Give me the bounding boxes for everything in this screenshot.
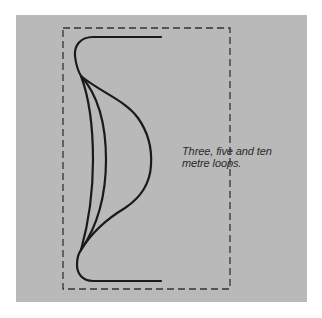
- caption-line-1: Three, five and ten: [182, 145, 272, 157]
- top-lead-in: [75, 37, 161, 76]
- ten-metre-loop: [81, 76, 151, 250]
- caption-line-2: metre loops.: [182, 157, 272, 169]
- bottom-lead-out: [77, 250, 161, 281]
- cable-loops-diagram: [0, 0, 322, 318]
- three-metre-loop: [81, 76, 93, 250]
- caption: Three, five and ten metre loops.: [182, 145, 272, 169]
